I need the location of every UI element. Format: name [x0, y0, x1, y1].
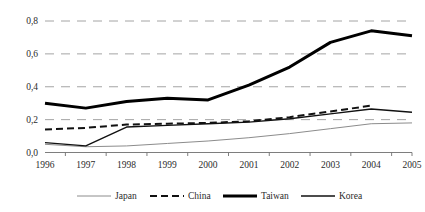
x-axis-tick-label: 1997 [76, 160, 95, 170]
x-axis-tick-label: 2005 [403, 160, 422, 170]
x-axis-tick-label: 2002 [280, 160, 299, 170]
x-axis-tick-label: 1996 [36, 160, 55, 170]
y-axis-tick-label: 0,2 [26, 115, 38, 125]
chart-canvas: 0,00,20,40,60,8 199619971998199920002001… [0, 0, 425, 212]
y-axis-tick-label: 0,8 [26, 16, 38, 26]
legend-label-china: China [188, 191, 211, 201]
x-axis-tick-label: 2000 [199, 160, 218, 170]
x-axis-tick-label: 2001 [239, 160, 258, 170]
x-axis-tick-label: 1998 [117, 160, 136, 170]
line-chart: 0,00,20,40,60,8 199619971998199920002001… [0, 0, 425, 212]
legend-label-korea: Korea [339, 191, 363, 201]
x-axis-tick-label: 1999 [158, 160, 177, 170]
legend-label-japan: Japan [115, 191, 137, 201]
legend-label-taiwan: Taiwan [261, 191, 289, 201]
x-axis-tick-label: 2003 [321, 160, 340, 170]
y-axis-tick-label: 0,0 [26, 148, 38, 158]
y-axis-tick-label: 0,4 [26, 82, 38, 92]
y-axis-tick-label: 0,6 [26, 49, 38, 59]
x-axis-tick-label: 2004 [362, 160, 381, 170]
